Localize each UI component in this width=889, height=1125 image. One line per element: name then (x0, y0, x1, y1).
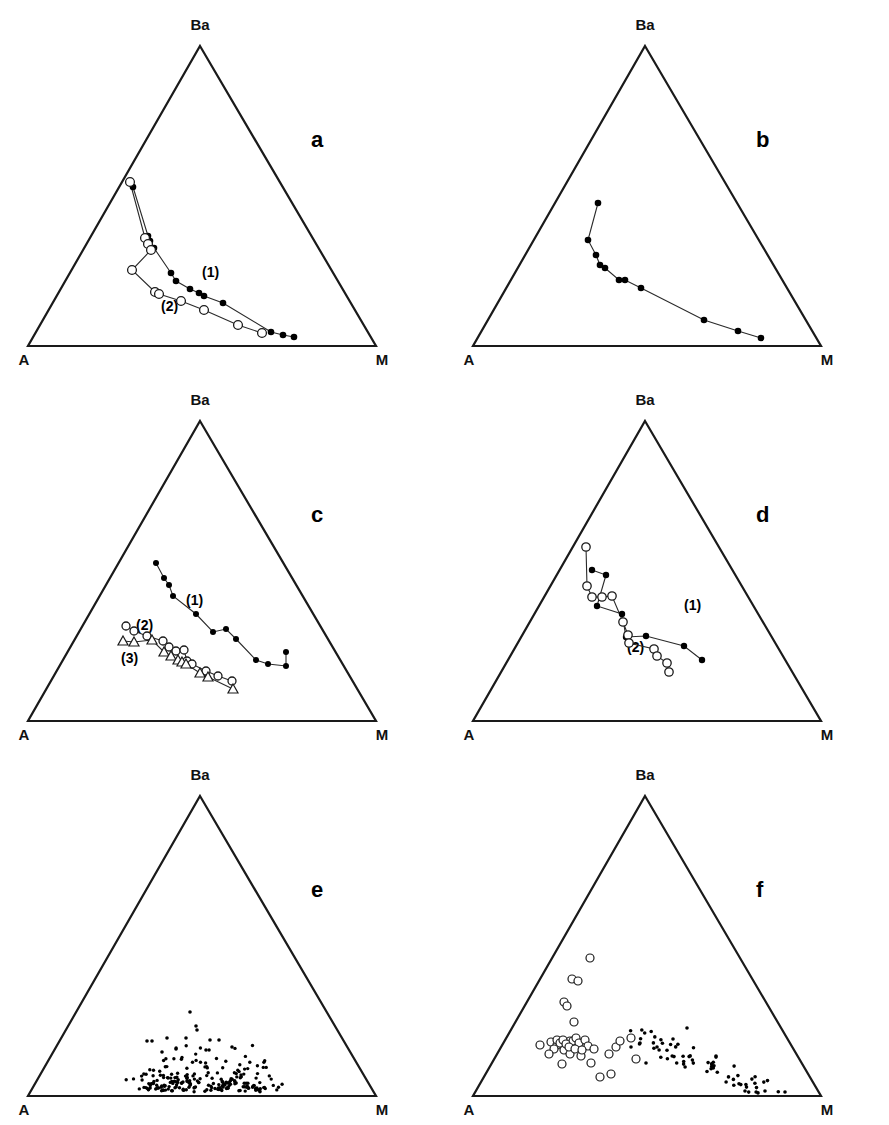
scatter-point (199, 1061, 202, 1064)
scatter-point (254, 1076, 257, 1079)
scatter-point (256, 1072, 259, 1075)
scatter-point (191, 1061, 194, 1064)
scatter-point (258, 1081, 261, 1084)
scatter-point (270, 1077, 273, 1080)
panel-b: Ba A M b (445, 0, 889, 375)
series-label-1: (1) (202, 264, 219, 280)
scatter-point (627, 1034, 635, 1042)
scatter-point (243, 1067, 246, 1070)
scatter-point (162, 1059, 165, 1062)
scatter-point (766, 1079, 770, 1083)
scatter-point (194, 1052, 197, 1055)
scatter-point (661, 1042, 665, 1046)
scatter-point (251, 1044, 254, 1047)
scatter-point (238, 1063, 241, 1066)
scatter-point (233, 1082, 236, 1085)
scatter-point (145, 1039, 149, 1043)
vertex-label-m: M (376, 351, 389, 368)
scatter-point (195, 1028, 199, 1032)
ternary-triangle (473, 421, 821, 721)
scatter-point (747, 1090, 751, 1094)
panel-letter-d: d (756, 502, 769, 527)
scatter-point (226, 1086, 229, 1089)
scatter-point (587, 1059, 595, 1067)
scatter-point (170, 1073, 173, 1076)
scatter-point (181, 1088, 184, 1091)
scatter-point (246, 1086, 249, 1089)
scatter-point (220, 1089, 223, 1092)
scatter-point (268, 1074, 271, 1077)
scatter-point (148, 1068, 151, 1071)
scatter-point (167, 1087, 170, 1090)
scatter-point (632, 1055, 640, 1063)
scatter-point (197, 1081, 200, 1084)
scatter-point (155, 1079, 158, 1082)
scatter-point (230, 1045, 234, 1049)
scatter-point (724, 1080, 728, 1084)
scatter-point (235, 1075, 238, 1078)
scatter-point (657, 1048, 661, 1052)
scatter-point (140, 1074, 143, 1077)
scatter-point (193, 1077, 196, 1080)
scatter-point (174, 1047, 178, 1051)
series-1-markers (130, 184, 298, 341)
series-label-1: (1) (684, 597, 701, 613)
scatter-point (687, 1055, 691, 1059)
vertex-label-m: M (821, 1101, 834, 1118)
scatter-point (659, 1055, 663, 1059)
scatter-point (716, 1070, 720, 1074)
scatter-point (212, 1082, 215, 1085)
scatter-point (272, 1084, 275, 1087)
scatter-point (217, 1086, 220, 1089)
series-2-markers (582, 543, 673, 676)
scatter-point (150, 1082, 153, 1085)
scatter-point (169, 1076, 172, 1079)
scatter-point (640, 1028, 644, 1032)
scatter-point (265, 1066, 268, 1069)
vertex-label-a: A (464, 351, 475, 368)
scatter-point (545, 1050, 553, 1058)
scatter-point (140, 1078, 143, 1081)
ternary-diagram-figure: Ba A M a (1) (2) (0, 0, 889, 1125)
scatter-point (652, 1046, 656, 1050)
scatter-point (672, 1055, 676, 1059)
scatter-point (237, 1089, 240, 1092)
scatter-point (629, 1045, 633, 1049)
scatter-point (754, 1090, 758, 1094)
panel-a: Ba A M a (1) (2) (0, 0, 444, 375)
scatter-point (649, 1030, 653, 1034)
scatter-point (237, 1070, 240, 1073)
scatter-point (160, 1050, 164, 1054)
vertex-label-a: A (19, 1101, 30, 1118)
scatter-point (216, 1071, 219, 1074)
vertex-label-ba: Ba (635, 16, 655, 33)
scatter-point (144, 1073, 147, 1076)
scatter-point (204, 1061, 207, 1064)
scatter-point (125, 1078, 128, 1081)
scatter-point (239, 1073, 242, 1076)
scatter-point (709, 1067, 713, 1071)
scatter-point (659, 1038, 663, 1042)
scatter-point (231, 1078, 234, 1081)
scatter-point (253, 1084, 256, 1087)
scatter-point (616, 1037, 624, 1045)
scatter-point (665, 1049, 669, 1053)
scatter-point (683, 1065, 687, 1069)
scatter-point (159, 1074, 162, 1077)
series-markers (585, 200, 765, 342)
scatter-point (536, 1041, 544, 1049)
scatter-point (706, 1061, 710, 1065)
vertex-label-ba: Ba (190, 16, 210, 33)
scatter-point (732, 1078, 736, 1082)
scatter-points-filled (629, 1026, 787, 1095)
scatter-point (156, 1086, 159, 1089)
scatter-point (186, 1073, 189, 1076)
scatter-point (142, 1086, 145, 1089)
scatter-point (607, 1070, 615, 1078)
scatter-point (586, 954, 594, 962)
ternary-triangle (28, 46, 376, 346)
scatter-point (180, 1056, 183, 1059)
scatter-point (755, 1086, 759, 1090)
scatter-point (222, 1083, 225, 1086)
scatter-point (233, 1071, 236, 1074)
